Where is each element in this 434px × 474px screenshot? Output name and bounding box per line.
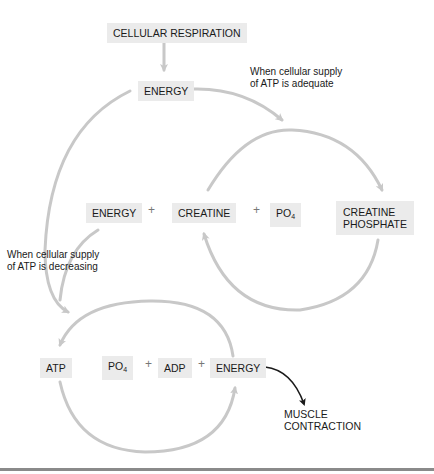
arrow-cycle-to-creatine-phosphate: [208, 130, 382, 190]
creatine-phosphate-node: CREATINE PHOSPHATE: [336, 201, 414, 235]
energy-bottom-node: ENERGY: [210, 358, 266, 378]
note-decreasing-line2: of ATP is decreasing: [7, 261, 99, 273]
creatine-node: CREATINE: [172, 203, 236, 223]
plus-sign: +: [145, 358, 152, 370]
plus-sign: +: [198, 358, 205, 370]
bottom-divider: [0, 468, 434, 471]
creatine-phosphate-line1: CREATINE: [343, 206, 407, 218]
cellular-respiration-node: CELLULAR RESPIRATION: [107, 23, 247, 43]
plus-sign: +: [253, 204, 260, 216]
note-adequate-line2: of ATP is adequate: [250, 78, 342, 90]
arrow-cycle-bottom-to-energy: [60, 382, 235, 452]
muscle-contraction-label: MUSCLE CONTRACTION: [284, 408, 361, 432]
note-adequate-line1: When cellular supply: [250, 66, 342, 78]
po4-mid-subscript: 4: [291, 213, 295, 220]
arrow-energy-decreasing: [45, 91, 130, 312]
pathway-arrows: [0, 0, 434, 474]
arrow-energy-adequate: [194, 89, 282, 120]
muscle-contraction-line1: MUSCLE: [284, 408, 361, 420]
energy-mid-node: ENERGY: [86, 203, 142, 223]
po4-mid-node: PO4: [270, 203, 301, 227]
po4-bottom-label: PO: [108, 360, 123, 372]
arrow-energy-to-muscle-contraction: [265, 367, 304, 404]
muscle-contraction-line2: CONTRACTION: [284, 420, 361, 432]
arrow-cycle-top-to-atp: [60, 301, 233, 356]
po4-mid-label: PO: [276, 207, 291, 219]
note-adequate: When cellular supply of ATP is adequate: [250, 66, 342, 90]
note-decreasing: When cellular supply of ATP is decreasin…: [7, 249, 99, 273]
plus-sign: +: [148, 204, 155, 216]
note-decreasing-line1: When cellular supply: [7, 249, 99, 261]
atp-node: ATP: [40, 358, 72, 378]
po4-bottom-node: PO4: [102, 356, 133, 380]
energy-top-node: ENERGY: [138, 81, 194, 101]
creatine-phosphate-line2: PHOSPHATE: [343, 218, 407, 230]
po4-bottom-subscript: 4: [123, 366, 127, 373]
adp-node: ADP: [158, 358, 192, 378]
arrow-creatine-phosphate-to-creatine: [204, 234, 378, 310]
